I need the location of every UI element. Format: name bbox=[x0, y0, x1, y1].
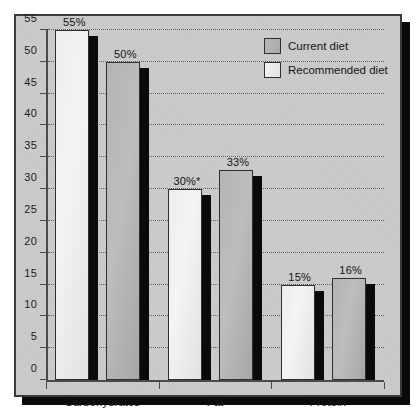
legend-swatch-icon bbox=[264, 62, 281, 78]
y-axis-tick-label: 40 bbox=[24, 107, 37, 119]
gridline bbox=[48, 156, 384, 157]
bar-3d-shadow bbox=[140, 68, 149, 380]
bar-protein-current-diet[interactable] bbox=[281, 285, 315, 380]
gridline bbox=[48, 124, 384, 125]
y-axis-tick bbox=[40, 347, 48, 348]
y-axis-tick bbox=[40, 379, 48, 380]
y-axis-tick-label: 45 bbox=[24, 76, 37, 88]
gridline bbox=[48, 29, 384, 30]
gridline bbox=[48, 93, 384, 94]
y-axis-tick bbox=[40, 315, 48, 316]
y-axis-tick-label: 30 bbox=[24, 171, 37, 183]
chart-figure: 0510152025303540455055 55%50%30%*33%15%1… bbox=[0, 0, 420, 419]
y-axis-tick-label: 15 bbox=[24, 267, 37, 279]
x-axis-tick bbox=[384, 382, 385, 389]
y-axis-tick-label: 25 bbox=[24, 203, 37, 215]
x-axis-tick bbox=[46, 382, 47, 389]
x-axis-tick bbox=[271, 382, 272, 389]
y-axis-tick bbox=[40, 93, 48, 94]
chart-panel: 0510152025303540455055 55%50%30%*33%15%1… bbox=[14, 14, 402, 397]
bar-value-label: 16% bbox=[339, 264, 362, 276]
y-axis-tick bbox=[40, 252, 48, 253]
gridline bbox=[48, 252, 384, 253]
bar-protein-recommended-diet[interactable] bbox=[332, 278, 366, 380]
legend-swatch-icon bbox=[264, 38, 281, 54]
y-axis-line bbox=[46, 30, 48, 382]
y-axis-tick-label: 0 bbox=[31, 362, 37, 374]
y-axis-tick-label: 10 bbox=[24, 298, 37, 310]
y-axis-tick bbox=[40, 156, 48, 157]
y-axis-tick bbox=[40, 220, 48, 221]
bar-value-label: 33% bbox=[227, 156, 250, 168]
y-axis-tick bbox=[40, 29, 48, 30]
bar-value-label: 30%* bbox=[173, 175, 200, 187]
bar-value-label: 15% bbox=[288, 271, 311, 283]
bar-3d-shadow bbox=[253, 176, 262, 380]
legend-item-label: Recommended diet bbox=[288, 64, 388, 76]
gridline bbox=[48, 220, 384, 221]
bar-3d-shadow bbox=[89, 36, 98, 380]
y-axis-tick bbox=[40, 188, 48, 189]
y-axis-tick-label: 5 bbox=[31, 330, 37, 342]
y-axis-tick bbox=[40, 61, 48, 62]
bar-fat-current-diet[interactable] bbox=[168, 189, 202, 380]
y-axis-tick bbox=[40, 284, 48, 285]
x-axis-line bbox=[46, 380, 384, 382]
legend-item[interactable]: Current diet bbox=[264, 38, 388, 54]
y-axis-tick-label: 55 bbox=[24, 12, 37, 24]
bar-3d-shadow bbox=[202, 195, 211, 380]
bar-carbohydrates-current-diet[interactable] bbox=[55, 30, 89, 380]
legend-item-label: Current diet bbox=[288, 40, 348, 52]
x-axis-category-label: Carbohydrates bbox=[65, 396, 140, 408]
y-axis-tick-label: 35 bbox=[24, 139, 37, 151]
bar-3d-shadow bbox=[315, 291, 324, 380]
y-axis-tick-label: 20 bbox=[24, 235, 37, 247]
x-axis-tick bbox=[159, 382, 160, 389]
y-axis-tick bbox=[40, 124, 48, 125]
bar-value-label: 55% bbox=[63, 16, 86, 28]
bar-value-label: 50% bbox=[114, 48, 137, 60]
legend-item[interactable]: Recommended diet bbox=[264, 62, 388, 78]
x-axis-category-label: Protein bbox=[309, 396, 345, 408]
x-axis-category-label: Fat bbox=[207, 396, 224, 408]
chart-legend: Current dietRecommended diet bbox=[264, 38, 388, 86]
bar-3d-shadow bbox=[366, 284, 375, 380]
bar-carbohydrates-recommended-diet[interactable] bbox=[106, 62, 140, 380]
bar-fat-recommended-diet[interactable] bbox=[219, 170, 253, 380]
gridline bbox=[48, 188, 384, 189]
y-axis-tick-label: 50 bbox=[24, 44, 37, 56]
